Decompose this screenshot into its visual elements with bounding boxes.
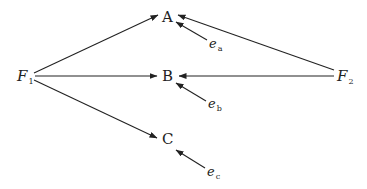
edge-ea-to-a [176, 22, 207, 40]
factor-f2-base: F [337, 67, 347, 85]
edge-f1-to-a [34, 15, 158, 73]
error-ec: ec [207, 165, 220, 178]
error-ec-sub: c [216, 172, 220, 181]
node-b: B [162, 69, 173, 84]
node-c: C [162, 132, 173, 147]
factor-f2: F2 [337, 69, 354, 84]
node-a: A [162, 10, 173, 25]
error-eb: eb [208, 97, 222, 110]
error-ec-base: e [207, 164, 215, 179]
factor-f2-sub: 2 [348, 77, 353, 86]
error-eb-base: e [208, 96, 216, 111]
edge-f1-to-c [34, 80, 157, 138]
node-a-label: A [162, 8, 173, 26]
factor-f1-sub: 1 [28, 77, 33, 86]
edge-ec-to-c [176, 150, 205, 168]
edge-f2-to-a [178, 15, 334, 70]
path-diagram-canvas [0, 0, 367, 189]
error-eb-sub: b [217, 104, 222, 113]
error-ea: ea [209, 37, 222, 50]
factor-f1-base: F [17, 67, 27, 85]
node-c-label: C [162, 130, 173, 148]
error-ea-sub: a [218, 44, 223, 53]
edge-eb-to-b [176, 83, 206, 101]
node-b-label: B [162, 67, 173, 85]
error-ea-base: e [209, 36, 217, 51]
factor-f1: F1 [17, 69, 34, 84]
